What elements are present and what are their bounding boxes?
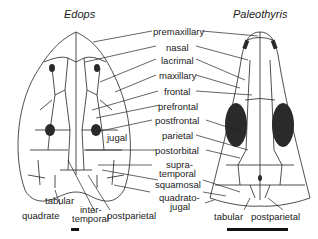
label-squamosal: squamosal [155,180,201,189]
paleothyris-left-orbit [225,103,247,147]
paleothyris-title: Paleothyris [233,8,287,20]
scale-bar-edops [71,228,79,231]
label-frontal: frontal [164,87,190,96]
paleothyris-right-orbit [272,103,294,147]
label-intertemporal-2: temporal [72,214,109,223]
label-jugal: jugal [107,133,127,142]
label-tabular-right: tabular [214,212,243,221]
label-parietal: parietal [162,131,193,140]
edops-right-pineal [94,64,100,72]
label-postparietal-right: postparietal [251,212,300,221]
edops-left-pineal [49,64,55,72]
label-lacrimal: lacrimal [161,56,194,65]
label-postorbital: postorbital [155,146,199,155]
label-prefrontal: prefrontal [158,102,198,111]
label-supratemporal-2: temporal [159,169,196,178]
edops-title: Edops [64,8,95,20]
label-postparietal-left: postparietal [107,211,156,220]
edops-right-orbit [91,124,101,136]
label-premaxillary: premaxillary [153,27,204,36]
scale-bar-paleothyris [227,228,288,231]
edops-skull-outline [18,32,130,201]
label-postfrontal: postfrontal [155,116,199,125]
label-quadrate: quadrate [22,211,60,220]
paleothyris-pineal [258,175,262,181]
edops-left-orbit [45,124,55,136]
label-quadratojugal-2: jugal [170,202,190,211]
label-maxillary: maxillary [159,71,196,80]
label-nasal: nasal [166,43,189,52]
label-tabular-left: tabular [45,196,74,205]
